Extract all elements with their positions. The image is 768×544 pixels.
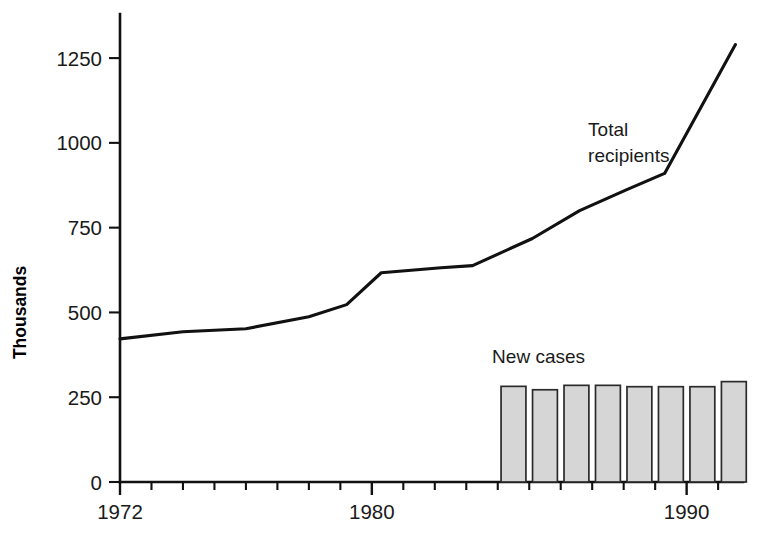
- y-axis-group: 025050075010001250 Thousands: [10, 14, 120, 494]
- bar-1990: [690, 387, 715, 482]
- x-tick-label-1972: 1972: [97, 500, 143, 523]
- y-axis-tick-labels: 025050075010001250: [56, 47, 102, 494]
- bar-1989: [658, 387, 683, 482]
- y-tick-label-0: 0: [91, 471, 102, 494]
- chart-figure: 025050075010001250 Thousands 19721980199…: [0, 0, 768, 544]
- y-axis-title: Thousands: [10, 266, 30, 360]
- y-axis-ticks: [109, 58, 120, 482]
- chart-canvas: 025050075010001250 Thousands 19721980199…: [0, 0, 768, 544]
- total-recipients-line-series: [120, 45, 735, 339]
- x-tick-label-1990: 1990: [664, 500, 710, 523]
- y-tick-label-750: 750: [68, 216, 102, 239]
- y-tick-label-250: 250: [68, 386, 102, 409]
- x-tick-label-1980: 1980: [349, 500, 395, 523]
- x-axis-ticks: [120, 482, 718, 495]
- bar-1991: [721, 382, 746, 482]
- y-tick-label-1000: 1000: [56, 131, 102, 154]
- y-tick-label-1250: 1250: [56, 47, 102, 70]
- total-recipients-annotation-line2: recipients: [588, 145, 669, 166]
- total-recipients-annotation-line1: Total: [588, 119, 628, 140]
- bar-1986: [564, 385, 589, 482]
- bar-1987: [595, 385, 620, 482]
- bar-1985: [533, 390, 558, 482]
- x-axis-group: 197219801990: [97, 482, 743, 523]
- new-cases-bar-series: [501, 382, 746, 482]
- bar-1988: [627, 387, 652, 482]
- new-cases-annotation: New cases: [492, 346, 585, 367]
- bar-1984: [501, 386, 526, 482]
- x-axis-tick-labels: 197219801990: [97, 500, 709, 523]
- y-tick-label-500: 500: [68, 301, 102, 324]
